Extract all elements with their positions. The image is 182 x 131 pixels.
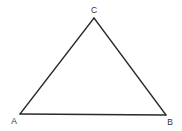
- vertex-label-c: C: [91, 5, 97, 15]
- vertex-label-b: B: [167, 117, 173, 127]
- vertex-label-a: A: [11, 116, 17, 126]
- edge-ca: [20, 18, 94, 114]
- edge-ab: [20, 114, 166, 115]
- edge-bc: [94, 18, 166, 115]
- triangle-diagram: A B C: [0, 0, 182, 131]
